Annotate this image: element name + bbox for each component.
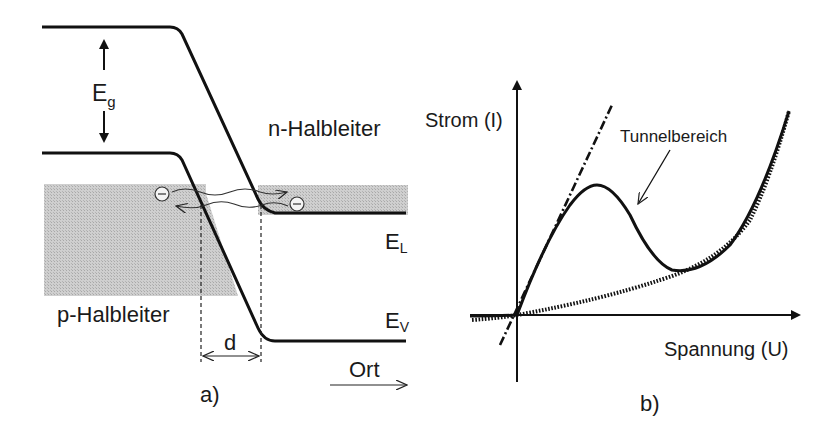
position-axis-label: Ort <box>349 357 380 382</box>
p-semiconductor-label: p-Halbleiter <box>57 302 170 327</box>
n-semiconductor-label: n-Halbleiter <box>268 116 381 141</box>
electron-left <box>155 187 169 201</box>
energy-gap-label: Eg <box>92 80 116 110</box>
panel-b-caption: b) <box>640 391 660 416</box>
electron-right <box>290 197 304 211</box>
shaded-filled-states <box>44 184 408 296</box>
annotation-arrow <box>638 150 670 204</box>
tunnel-region-annotation: Tunnelbereich <box>620 127 727 146</box>
figure-canvas: Eg n-Halbleiter p-Halbleiter EL EV d Ort… <box>0 0 840 430</box>
panel-a-caption: a) <box>200 382 220 407</box>
valence-band-label: EV <box>385 308 410 335</box>
panel-b-iv-chart: Strom (I) Spannung (U) Tunnelbereich b) <box>425 85 796 416</box>
barrier-width-label: d <box>224 330 236 355</box>
conduction-band-label: EL <box>385 229 408 256</box>
y-axis-label: Strom (I) <box>425 109 503 131</box>
panel-a-band-diagram: Eg n-Halbleiter p-Halbleiter EL EV d Ort… <box>42 27 410 407</box>
x-axis-label: Spannung (U) <box>664 338 789 360</box>
